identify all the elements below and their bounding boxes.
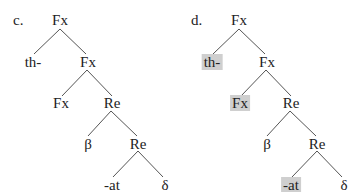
node-right2: Re: [104, 95, 121, 111]
node-left3: β: [263, 136, 271, 152]
node-right1: Fx: [259, 54, 275, 70]
node-left3: β: [84, 136, 92, 152]
node-left1: th-: [25, 54, 42, 70]
node-root: Fx: [231, 12, 247, 28]
node-left4-highlighted: -at: [281, 177, 301, 192]
example-label: d.: [191, 12, 202, 28]
node-right4: δ: [340, 177, 347, 192]
node-left2: Fx: [53, 95, 69, 111]
node-right3: Re: [309, 136, 326, 152]
node-right3: Re: [130, 136, 147, 152]
node-left2-highlighted: Fx: [230, 95, 250, 111]
node-right2: Re: [283, 95, 300, 111]
node-root: Fx: [52, 12, 68, 28]
node-left4: -at: [104, 177, 120, 192]
node-right1: Fx: [80, 54, 96, 70]
node-right4: δ: [161, 177, 168, 192]
node-left1-highlighted: th-: [202, 54, 223, 70]
example-label: c.: [13, 12, 23, 28]
